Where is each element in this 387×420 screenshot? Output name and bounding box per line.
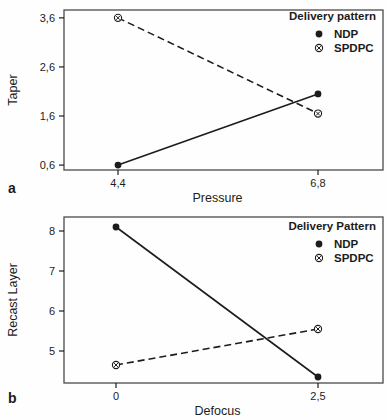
x-tick-label: 4,4 xyxy=(110,177,125,189)
y-tick-label: 1,6 xyxy=(40,110,55,122)
figure-interaction-plots: 0,61,62,63,64,46,8PressureTaperDelivery … xyxy=(0,0,387,420)
y-tick-label: 6 xyxy=(49,305,55,317)
spdpc-line xyxy=(116,329,318,365)
circle-cross-marker xyxy=(314,110,321,117)
filled-circle-marker xyxy=(315,374,322,381)
filled-circle-marker xyxy=(316,31,323,38)
x-tick-label: 6,8 xyxy=(310,177,325,189)
chart-a-taper-vs-pressure: 0,61,62,63,64,46,8PressureTaperDelivery … xyxy=(0,0,387,210)
filled-circle-marker xyxy=(113,224,120,231)
filled-circle-marker xyxy=(115,162,122,169)
spdpc-line xyxy=(118,18,318,114)
y-tick-label: 8 xyxy=(49,225,55,237)
filled-circle-marker xyxy=(316,241,323,248)
ndp-line xyxy=(118,94,318,165)
y-tick-label: 0,6 xyxy=(40,159,55,171)
legend-item-label: NDP xyxy=(334,28,359,40)
legend-title: Delivery Pattern xyxy=(288,220,376,232)
circle-cross-marker xyxy=(314,325,321,332)
legend-title: Delivery pattern xyxy=(289,10,376,22)
circle-cross-marker xyxy=(114,14,121,21)
panel-letter-a: a xyxy=(8,180,16,196)
x-axis-label: Pressure xyxy=(192,191,242,205)
legend-item-label: SPDPC xyxy=(334,42,374,54)
chart-b-recast-layer-vs-defocus: 567802,5DefocusRecast LayerDelivery Patt… xyxy=(0,210,387,420)
y-axis-label: Recast Layer xyxy=(6,263,20,337)
circle-cross-marker xyxy=(112,361,119,368)
x-tick-label: 0 xyxy=(113,390,119,402)
chart-a-canvas: 0,61,62,63,64,46,8PressureTaperDelivery … xyxy=(0,0,387,210)
legend-item-label: SPDPC xyxy=(334,252,374,264)
y-axis-label: Taper xyxy=(6,74,20,105)
filled-circle-marker xyxy=(315,91,322,98)
legend-item-label: NDP xyxy=(334,238,359,250)
y-tick-label: 2,6 xyxy=(40,61,55,73)
circle-cross-marker xyxy=(315,254,322,261)
panel-letter-b: b xyxy=(8,390,17,406)
y-tick-label: 3,6 xyxy=(40,12,55,24)
y-tick-label: 5 xyxy=(49,345,55,357)
chart-b-canvas: 567802,5DefocusRecast LayerDelivery Patt… xyxy=(0,210,387,420)
ndp-line xyxy=(116,227,318,377)
y-tick-label: 7 xyxy=(49,265,55,277)
x-tick-label: 2,5 xyxy=(310,390,325,402)
x-axis-label: Defocus xyxy=(195,404,241,418)
circle-cross-marker xyxy=(315,44,322,51)
